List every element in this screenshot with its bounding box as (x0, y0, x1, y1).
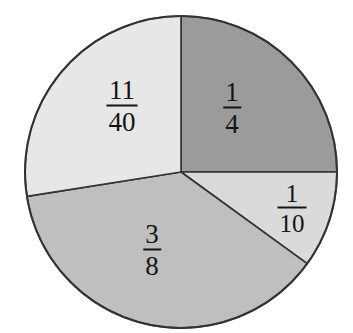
fraction-tenth: 1 10 (278, 181, 307, 236)
fraction-denominator: 10 (278, 209, 307, 236)
fraction-denominator: 8 (143, 251, 161, 280)
fraction-numerator: 1 (278, 181, 307, 209)
pie-label-three-eighths: 3 8 (143, 221, 161, 280)
pie-chart: 11 40 1 4 1 10 3 8 (0, 0, 353, 333)
fraction-three-eighths: 3 8 (143, 221, 161, 280)
fraction-denominator: 40 (107, 107, 138, 136)
fraction-quarter: 1 4 (223, 79, 241, 138)
pie-label-eleven-fortieths: 11 40 (107, 77, 138, 136)
fraction-numerator: 3 (143, 221, 161, 251)
pie-slice-quarter[interactable] (181, 16, 337, 172)
fraction-eleven-fortieths: 11 40 (107, 77, 138, 136)
pie-label-quarter: 1 4 (223, 79, 241, 138)
pie-slices (25, 16, 337, 328)
fraction-numerator: 11 (107, 77, 138, 107)
pie-slice-eleven-fortieths[interactable] (25, 16, 181, 196)
fraction-numerator: 1 (223, 79, 241, 109)
pie-chart-canvas (0, 0, 353, 333)
pie-label-tenth: 1 10 (278, 181, 307, 236)
fraction-denominator: 4 (223, 109, 241, 138)
